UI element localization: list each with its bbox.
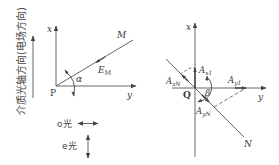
vector-EM-arrow bbox=[96, 57, 105, 63]
component-Ay1-label: Ay1 bbox=[227, 75, 241, 87]
right-x-label: x bbox=[186, 22, 191, 32]
right-y-label: y bbox=[257, 92, 264, 102]
angle-alpha-label: α bbox=[76, 74, 82, 84]
legend-e-light-label: e光 bbox=[62, 140, 77, 151]
projection-dash-lower bbox=[214, 88, 246, 107]
optic-axis-label: 介质光轴方向(电场方向) bbox=[15, 7, 27, 115]
diagram-canvas: 介质光轴方向(电场方向) x y P M EM α o光 e光 x y bbox=[0, 0, 279, 165]
left-y-label: y bbox=[126, 90, 133, 100]
line-PM bbox=[56, 40, 133, 86]
left-origin-label: P bbox=[50, 88, 56, 98]
vector-EM-label: EM bbox=[97, 65, 112, 77]
right-origin-label: Q bbox=[183, 90, 191, 100]
component-Ax1-label: Ax1 bbox=[198, 65, 212, 76]
left-x-label: x bbox=[47, 24, 52, 34]
component-AzN-arrow bbox=[182, 75, 188, 81]
angle-beta-label: β bbox=[204, 88, 210, 98]
component-AzN-label: AzN bbox=[165, 76, 181, 87]
legend-o-light-label: o光 bbox=[57, 118, 72, 129]
line-N-label: N bbox=[243, 139, 253, 149]
left-diagram: 介质光轴方向(电场方向) x y P M EM α o光 e光 bbox=[15, 7, 136, 158]
line-M-label: M bbox=[116, 30, 127, 40]
angle-alpha-arrow-upper bbox=[65, 70, 68, 74]
projection-dash-upper bbox=[180, 68, 195, 74]
component-AyN-label: AyN bbox=[195, 106, 212, 118]
right-diagram: x y Q N Ax1 Ay1 AzN AyN β bbox=[165, 22, 266, 157]
angle-alpha-arc bbox=[66, 72, 75, 93]
